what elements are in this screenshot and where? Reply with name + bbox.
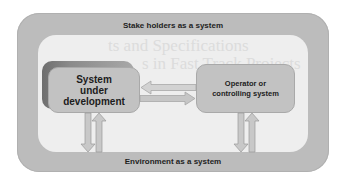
watermark-line-1: ts and Specifications <box>108 37 308 55</box>
operator-line-1: Operator or <box>225 79 266 89</box>
operator-line-2: controlling system <box>212 89 279 99</box>
sud-line-2: under <box>80 85 108 96</box>
sud-line-1: System <box>76 74 112 85</box>
sud-line-3: development <box>63 96 125 107</box>
environment-label: Environment as a system <box>17 157 329 166</box>
operator-node: Operator or controlling system <box>196 64 295 113</box>
diagram-canvas: Stake holders as a system ts and Specifi… <box>0 0 343 182</box>
system-under-development-node: System under development <box>48 67 140 113</box>
stakeholders-label: Stake holders as a system <box>17 21 329 30</box>
